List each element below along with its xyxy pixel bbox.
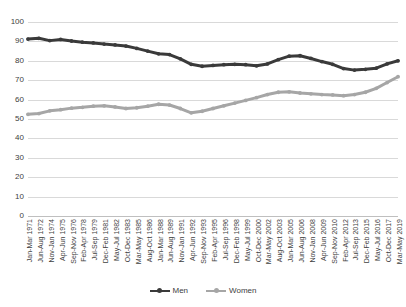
data-point [342, 67, 346, 71]
data-point [102, 42, 106, 46]
x-axis-tick-label: Feb-Apr 1995 [211, 219, 218, 262]
data-point [59, 38, 63, 42]
x-axis-tick-label: Jul-Sep 2013 [352, 219, 359, 260]
data-point [200, 64, 204, 68]
data-point [102, 104, 106, 108]
data-point [233, 62, 237, 66]
data-point [48, 39, 52, 43]
x-axis-tick-label: Feb-Apr 2012 [342, 219, 349, 262]
data-point [124, 44, 128, 48]
data-point [157, 102, 161, 106]
data-point [244, 63, 248, 67]
data-point [331, 93, 335, 97]
x-axis-tick-label: Dec-Feb 2015 [363, 219, 370, 263]
y-axis-tick-label: 40 [15, 134, 24, 142]
gridline-0 [28, 216, 398, 217]
data-point [135, 106, 139, 110]
data-point [353, 68, 357, 72]
data-point [309, 57, 313, 61]
data-point [48, 109, 52, 113]
data-point [222, 63, 226, 67]
x-axis-tick-label: Oct-Dec 2017 [385, 219, 392, 262]
data-point [135, 46, 139, 50]
x-axis-tick-label: Nov-Jan 1991 [178, 219, 185, 263]
data-point [320, 93, 324, 97]
data-point [276, 90, 280, 94]
y-axis: 0102030405060708090100 [0, 22, 24, 216]
legend-marker-icon [206, 287, 226, 295]
data-point [157, 52, 161, 56]
data-point [287, 90, 291, 94]
x-axis-tick-label: Mar-May 2019 [396, 219, 403, 264]
data-point [342, 94, 346, 98]
data-point [211, 64, 215, 68]
legend-item-men[interactable]: Men [150, 286, 189, 295]
data-point [211, 107, 215, 111]
x-axis-tick-label: Sep-Nov 1993 [200, 219, 207, 264]
data-point [266, 62, 270, 66]
y-axis-tick-label: 50 [15, 115, 24, 123]
y-axis-tick-label: 100 [11, 18, 24, 26]
data-point [255, 96, 259, 100]
series-container [28, 22, 398, 216]
data-point [113, 43, 117, 47]
data-point [298, 54, 302, 58]
y-axis-tick-label: 60 [15, 96, 24, 104]
data-point [59, 108, 63, 112]
data-point [26, 37, 30, 41]
y-axis-tick-label: 90 [15, 37, 24, 45]
x-axis-tick-label: Sep-Nov 2010 [331, 219, 338, 264]
data-point [276, 58, 280, 62]
x-axis-tick-label: May-Jul 2016 [374, 219, 381, 261]
data-point [385, 62, 389, 66]
data-point [70, 39, 74, 43]
data-point [91, 41, 95, 45]
x-axis-tick-label: Jan-Mar 1971 [26, 219, 33, 262]
y-axis-tick-label: 80 [15, 57, 24, 65]
employment-rate-line-chart: 0102030405060708090100 Jan-Mar 1971Jun-A… [0, 0, 406, 307]
x-axis-tick-label: Jul-Sep 1979 [91, 219, 98, 260]
data-point [255, 64, 259, 68]
data-point [320, 60, 324, 64]
x-axis-tick-label: Jul-Sep 1996 [222, 219, 229, 260]
x-axis-tick-label: Apr-Jun 1975 [59, 219, 66, 261]
x-axis-tick-label: Jan-Mar 2005 [287, 219, 294, 262]
x-axis-tick-label: Apr-Jun 2009 [320, 219, 327, 261]
legend-item-women[interactable]: Women [206, 286, 256, 295]
x-axis-tick-label: Oct-Dec 1983 [124, 219, 131, 262]
data-point [146, 49, 150, 53]
data-point [363, 67, 367, 71]
legend-label: Men [173, 286, 189, 295]
x-axis-tick-label: Sep-Nov 1976 [70, 219, 77, 264]
data-point [222, 104, 226, 108]
x-axis-tick-label: Nov-Jan 2008 [309, 219, 316, 263]
legend-marker-icon [150, 287, 170, 295]
data-point [233, 101, 237, 105]
data-point [70, 106, 74, 110]
data-point [91, 104, 95, 108]
x-axis-tick-label: Jun-Aug 2006 [298, 219, 305, 263]
x-axis-tick-label: May-Jul 1982 [113, 219, 120, 261]
y-axis-tick-label: 30 [15, 154, 24, 162]
y-axis-tick-label: 10 [15, 193, 24, 201]
x-axis-tick-label: Dec-Feb 1981 [102, 219, 109, 263]
data-point [81, 105, 85, 109]
data-point [189, 111, 193, 115]
y-axis-tick-label: 20 [15, 173, 24, 181]
x-axis-tick-label: Jan-Mar 1988 [157, 219, 164, 262]
x-axis-tick-label: Feb-Apr 1978 [80, 219, 87, 262]
data-point [363, 90, 367, 94]
data-point [244, 98, 248, 102]
data-point [26, 112, 30, 116]
x-axis-tick-label: Jun-Aug 1972 [37, 219, 44, 263]
x-axis-tick-label: May-Jul 1999 [244, 219, 251, 261]
x-axis-tick-label: Aug-Oct 1986 [146, 219, 153, 262]
legend-label: Women [229, 286, 256, 295]
data-point [168, 53, 172, 57]
data-point [396, 75, 400, 79]
x-axis-tick-label: Mar-May 2002 [265, 219, 272, 264]
data-point [81, 40, 85, 44]
data-point [146, 104, 150, 108]
data-point [298, 91, 302, 95]
data-point [385, 81, 389, 85]
